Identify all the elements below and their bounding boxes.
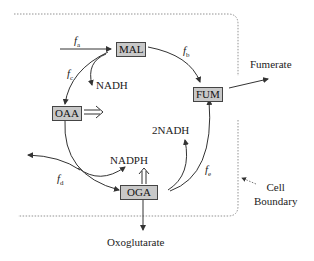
flux-label-a: fa	[74, 34, 80, 51]
output-fumerate: Fumerate	[250, 58, 292, 70]
two-nadh-arrow	[168, 140, 187, 190]
metabolite-box-oga: OGA	[120, 185, 158, 200]
flux-subscript: c	[70, 74, 73, 82]
fumerate-export-arrow	[229, 79, 268, 88]
flux-label-c: fc	[67, 67, 73, 84]
flux-label-d: fd	[57, 172, 64, 189]
flux-b-arrow	[148, 47, 200, 82]
nadph-arrow	[78, 167, 125, 176]
cell-boundary-label: Cell Boundary	[254, 180, 297, 208]
oga-up-double-arrow-icon	[139, 168, 149, 184]
flux-subscript: a	[77, 41, 80, 49]
oaa-double-arrow-icon	[84, 106, 103, 118]
cofactor-2nadh: 2NADH	[152, 124, 189, 136]
metabolite-box-mal: MAL	[116, 42, 146, 57]
cofactor-nadph: NADPH	[110, 154, 148, 166]
flux-subscript: e	[208, 170, 211, 178]
metabolite-box-oaa: OAA	[52, 106, 82, 121]
cofactor-nadh: NADH	[96, 79, 128, 91]
flux-e-arrow	[170, 100, 210, 191]
flux-label-e: fe	[205, 163, 211, 180]
boundary-label-line1: Cell	[254, 180, 297, 194]
flux-label-b: fb	[183, 44, 190, 61]
output-oxoglutarate: Oxoglutarate	[107, 236, 164, 248]
flux-subscript: d	[60, 179, 64, 187]
metabolite-box-fum: FUM	[193, 87, 223, 102]
boundary-label-line2: Boundary	[254, 194, 297, 208]
flux-subscript: b	[186, 51, 190, 59]
